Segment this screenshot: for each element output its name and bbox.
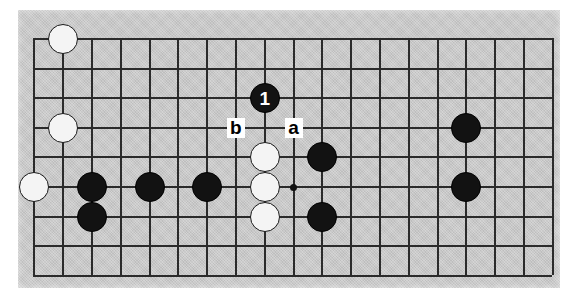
- point-label-b: b: [227, 118, 245, 138]
- go-board-point-labels: ba: [0, 0, 575, 298]
- point-label-a: a: [285, 118, 303, 138]
- go-diagram-screenshot: 1 ba: [0, 0, 575, 298]
